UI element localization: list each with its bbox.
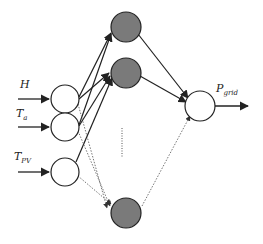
hidden-node-2 [111,58,141,88]
input-node-ta [51,113,79,141]
hidden-node-n [111,198,141,228]
input-node-tpv [51,158,79,186]
hidden-node-1 [111,12,141,42]
neural-network-diagram: H Ta TPV Pgrid [0,0,263,244]
input-hidden-connections [76,33,112,162]
label-h: H [19,78,30,91]
label-pgrid: Pgrid [215,82,238,97]
hidden-output-connections [138,34,190,206]
label-ta: Ta [16,107,28,122]
label-tpv: TPV [14,150,32,165]
input-node-h [51,85,79,113]
output-node [185,91,215,121]
